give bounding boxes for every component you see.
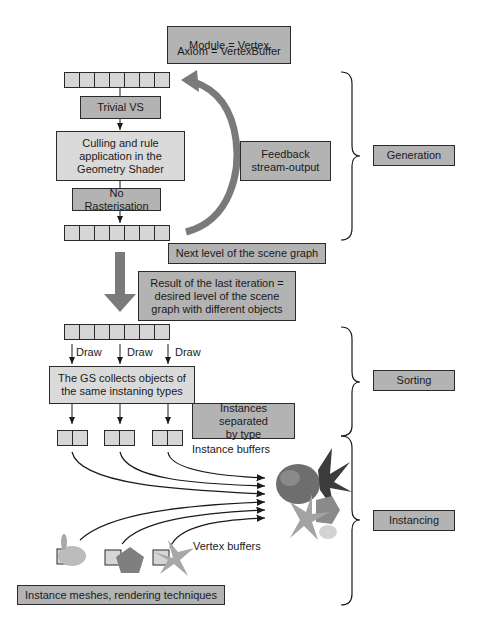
feedback-box: Feedback stream-output (240, 141, 331, 181)
instances-separated-box: Instances separated by type (192, 403, 295, 439)
vertex-buffer-bottom (64, 225, 170, 241)
sorting-brace (341, 327, 360, 436)
no-rasterisation-box: No Rasterisation (72, 188, 161, 211)
next-level-box: Next level of the scene graph (168, 243, 326, 264)
instancing-brace (341, 436, 360, 605)
next-level-label: Next level of the scene graph (176, 247, 318, 260)
instance-buffer-2 (104, 430, 135, 446)
stage-generation-label: Generation (387, 149, 441, 162)
instance-buffers-label: Instance buffers (192, 443, 270, 455)
result-label: Result of the last iteration = desired l… (150, 277, 284, 316)
pentagon-mesh-icon (105, 547, 144, 573)
stage-instancing-label: Instancing (389, 514, 439, 527)
stage-sorting: Sorting (373, 370, 455, 391)
instances-separated-label: Instances separated by type (197, 402, 290, 441)
down-arrow (104, 252, 136, 312)
vertex-buffers-label: Vertex buffers (193, 540, 261, 552)
trivial-vs-label: Trivial VS (97, 101, 144, 114)
draw-label-2: Draw (127, 346, 153, 358)
feedback-label: Feedback stream-output (252, 148, 320, 174)
draw-label-3: Draw (175, 346, 201, 358)
instance-buffer-arrows (72, 404, 168, 424)
rendered-objects-cluster (276, 448, 352, 540)
culling-box: Culling and rule application in the Geom… (56, 131, 185, 181)
instance-meshes-box: Instance meshes, rendering techniques (17, 585, 225, 605)
gs-collects-box: The GS collects objects of the same inst… (49, 366, 195, 404)
axiom-line: Axiom = VertexBuffer (167, 45, 291, 57)
trivial-vs-box: Trivial VS (80, 96, 161, 119)
culling-label: Culling and rule application in the Geom… (77, 137, 164, 176)
feedback-loop-arrow (181, 70, 237, 232)
vertex-buffer-top (64, 72, 170, 88)
instance-buffer-1 (57, 430, 88, 446)
gs-collects-label: The GS collects objects of the same inst… (58, 372, 186, 398)
stage-braces (341, 72, 360, 605)
instancing-flow-arrows (72, 452, 265, 548)
draw-label-1: Draw (76, 346, 102, 358)
instance-buffer-3 (152, 430, 183, 446)
stage-instancing: Instancing (373, 510, 455, 531)
instance-meshes-label: Instance meshes, rendering techniques (25, 589, 217, 602)
pinwheel-mesh-icon (153, 540, 194, 576)
no-rasterisation-label: No Rasterisation (77, 187, 156, 213)
stage-generation: Generation (373, 145, 455, 166)
result-box: Result of the last iteration = desired l… (138, 271, 296, 321)
generation-brace (341, 72, 360, 240)
scene-graph-buffer (64, 324, 170, 340)
stage-sorting-label: Sorting (397, 374, 432, 387)
